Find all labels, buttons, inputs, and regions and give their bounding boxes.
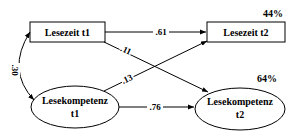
node-label-line1: Lesekompetenz [42, 95, 109, 106]
node-label: Lesezeit t2 [223, 27, 268, 38]
node-lesekompetenz-t1: Lesekompetenz t1 [31, 86, 119, 128]
path-lk1-lk2: .76 [119, 102, 194, 112]
node-label: Lesezeit t1 [45, 27, 90, 38]
node-label-line2: t2 [236, 109, 244, 120]
r-squared-label: 64% [257, 73, 277, 84]
node-label-line2: t1 [71, 108, 79, 119]
path-coefficient: .61 [155, 27, 167, 37]
correlation-coefficient: .30 [10, 64, 20, 76]
path-coefficient: .13 [120, 72, 135, 86]
path-lk1-lz2: .13 [104, 41, 207, 91]
node-label-line1: Lesekompetenz [207, 96, 274, 107]
node-lesezeit-t2: Lesezeit t2 44% [207, 8, 285, 42]
path-diagram: Lesezeit t1 Lesezeit t2 44% Lesekompeten… [0, 0, 296, 133]
path-lz1-lk2: .11 [104, 42, 208, 92]
node-lesezeit-t1: Lesezeit t1 [30, 22, 105, 42]
path-lz1-lz2: .61 [105, 27, 206, 37]
path-coefficient: .76 [149, 102, 161, 112]
r-squared-label: 44% [263, 8, 283, 19]
node-lesekompetenz-t2: Lesekompetenz t2 64% [195, 73, 285, 130]
